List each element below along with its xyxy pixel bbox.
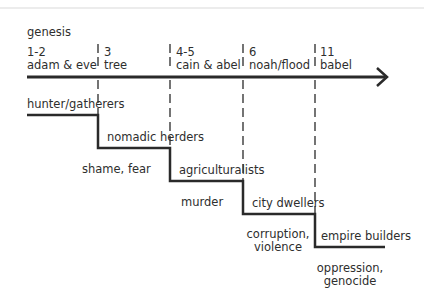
timeline-diagram [0,0,424,301]
consequence-shame-fear: shame, fear [82,163,151,176]
stage-nomadic-herders: nomadic herders [107,131,204,144]
marker-label-4: noah/flood [249,59,310,72]
descent-staircase [27,115,385,247]
marker-label-1: adam & eve [27,59,97,72]
marker-label-5: babel [320,59,352,72]
marker-label-2: tree [104,59,127,72]
diagram-title: genesis [27,26,71,39]
stage-hunter-gatherers: hunter/gatherers [27,98,125,111]
stage-city-dwellers: city dwellers [252,197,324,210]
stage-agriculturalists: agriculturalists [179,164,265,177]
stage-empire-builders: empire builders [321,230,411,243]
marker-label-3: cain & abel [176,59,241,72]
consequence-murder: murder [181,196,223,209]
consequence-violence: violence [238,241,318,254]
consequence-genocide: genocide [310,275,390,288]
